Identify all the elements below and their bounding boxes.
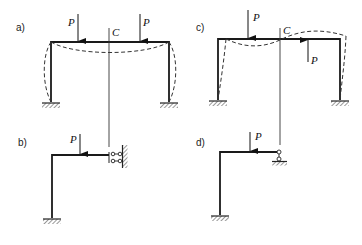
- frame-b: [52, 155, 109, 218]
- fixed-support-right-c: [331, 101, 349, 106]
- panel-label-a: a): [16, 22, 25, 33]
- deflection-beam-a: [51, 42, 169, 53]
- fixed-support-left-a: [42, 103, 60, 108]
- load-label: P: [67, 16, 75, 28]
- load-label: P: [252, 11, 260, 23]
- deflection-left-column-a: [44, 42, 51, 102]
- load-label: P: [310, 54, 318, 66]
- load-label: P: [69, 133, 77, 145]
- load-label: P: [254, 130, 262, 142]
- fixed-support-right-a: [160, 103, 178, 108]
- deflection-left-column-c: [218, 39, 226, 100]
- sliding-support-b: [109, 145, 128, 168]
- fixed-support-left-c: [209, 101, 227, 106]
- axis-label-c: C: [112, 26, 120, 38]
- fixed-support-d: [211, 216, 229, 221]
- panel-b: b) P: [18, 122, 128, 224]
- frame-d: [220, 152, 279, 215]
- panel-c: c) P P C: [196, 10, 349, 122]
- structural-diagram: a) P P C b) P: [0, 0, 362, 245]
- panel-label-d: d): [196, 137, 205, 148]
- panel-d: d) P: [196, 122, 287, 221]
- axis-label-c: C: [283, 24, 291, 36]
- panel-label-c: c): [196, 22, 204, 33]
- deflection-right-column-a: [169, 42, 176, 102]
- load-label: P: [142, 16, 150, 28]
- panel-label-b: b): [18, 137, 27, 148]
- frame-a: [51, 42, 169, 102]
- panel-a: a) P P C: [16, 14, 178, 122]
- frame-c: [218, 39, 340, 100]
- fixed-support-b: [43, 219, 61, 224]
